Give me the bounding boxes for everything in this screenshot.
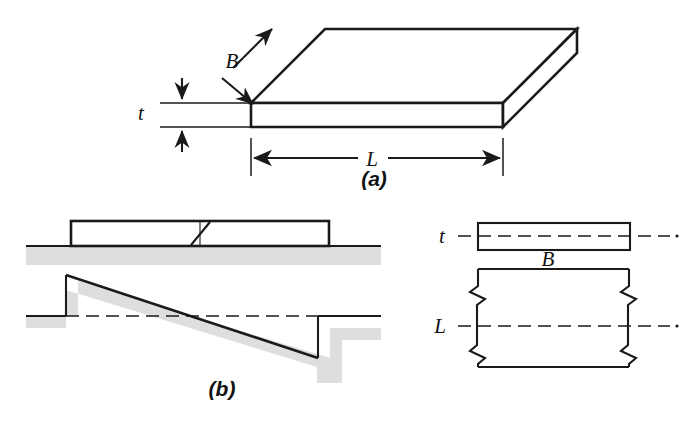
plan-view-centerline-dot <box>675 324 678 327</box>
label-length-c: L <box>433 314 446 338</box>
plate-front-face <box>251 103 503 127</box>
figure-root: t B L (a) <box>0 0 693 425</box>
caption-panel-a: (a) <box>361 167 387 190</box>
edge-view-centerline-dot <box>675 234 678 237</box>
label-breadth-c: B <box>542 247 555 271</box>
ground-shadow-band <box>26 247 381 265</box>
technical-figure: t B L (a) <box>0 0 693 425</box>
caption-panel-b: (b) <box>209 377 236 400</box>
label-breadth-a: B <box>226 49 239 73</box>
